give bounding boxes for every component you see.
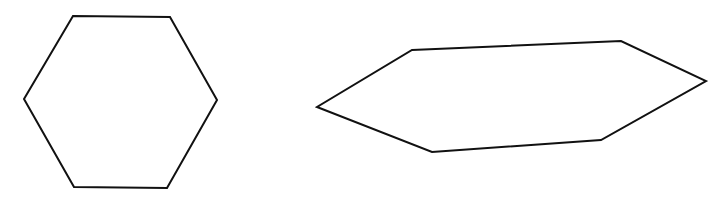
diagram-canvas: [0, 0, 721, 203]
regular-hexagon: [24, 16, 217, 188]
flattened-hexagon: [317, 41, 706, 152]
